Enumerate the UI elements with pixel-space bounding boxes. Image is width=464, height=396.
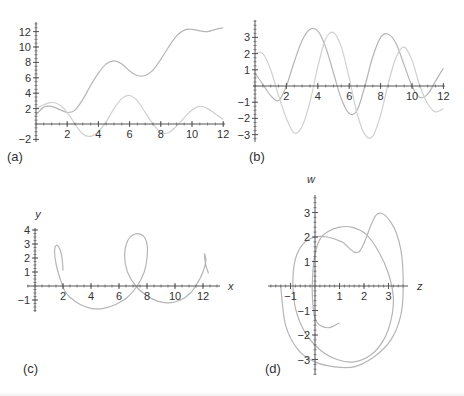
y-tick-label: 8 bbox=[25, 56, 31, 68]
x-tick-label: 2 bbox=[64, 128, 70, 140]
y-tick-label: 2 bbox=[24, 252, 30, 264]
y-tick-label: −1 bbox=[297, 305, 310, 317]
x-tick-label: 4 bbox=[315, 90, 321, 102]
x-tick-label: 12 bbox=[437, 90, 449, 102]
x-tick-label: 8 bbox=[144, 290, 150, 302]
x-tick-label: 4 bbox=[95, 128, 101, 140]
panel-label-b: (b) bbox=[249, 149, 265, 164]
x-tick-label: 10 bbox=[406, 90, 418, 102]
x-tick-label: 3 bbox=[385, 290, 391, 302]
figure-canvas: 24681012−224681012 24681012−3−2−1123 246… bbox=[0, 0, 464, 396]
y-axis-label: w bbox=[307, 173, 316, 185]
panel-a-plot: 24681012−224681012 bbox=[18, 22, 229, 145]
y-tick-label: −3 bbox=[237, 129, 250, 141]
x-tick-label: 2 bbox=[283, 90, 289, 102]
curve-a-1 bbox=[36, 28, 223, 115]
panel-c-plot: 24681012−11234xy bbox=[17, 208, 234, 312]
panel-label-c: (c) bbox=[23, 361, 38, 376]
curve-c-1 bbox=[55, 234, 209, 309]
x-tick-label: 8 bbox=[158, 128, 164, 140]
y-tick-label: 4 bbox=[24, 224, 30, 236]
y-tick-label: 1 bbox=[304, 256, 310, 268]
panel-d-plot: −1123−3−2−1123zw bbox=[268, 173, 423, 375]
y-tick-label: 3 bbox=[244, 31, 250, 43]
y-tick-label: 4 bbox=[25, 87, 31, 99]
y-tick-label: 3 bbox=[24, 238, 30, 250]
y-tick-label: 1 bbox=[244, 64, 250, 76]
x-tick-label: 10 bbox=[186, 128, 198, 140]
y-tick-label: −2 bbox=[237, 112, 250, 124]
x-tick-label: 2 bbox=[361, 290, 367, 302]
y-tick-label: 6 bbox=[25, 72, 31, 84]
panel-b-plot: 24681012−3−2−1123 bbox=[237, 20, 449, 142]
y-tick-label: −2 bbox=[18, 133, 31, 145]
x-tick-label: 8 bbox=[378, 90, 384, 102]
x-tick-label: 12 bbox=[217, 128, 229, 140]
x-tick-label: 1 bbox=[336, 290, 342, 302]
x-axis-label: x bbox=[227, 280, 234, 292]
x-axis-label: z bbox=[416, 280, 423, 292]
x-tick-label: −1 bbox=[284, 290, 297, 302]
y-tick-label: 2 bbox=[304, 231, 310, 243]
y-tick-label: −1 bbox=[237, 96, 250, 108]
y-tick-label: 2 bbox=[25, 103, 31, 115]
y-axis-label: y bbox=[34, 208, 42, 220]
y-tick-label: −2 bbox=[297, 329, 310, 341]
panel-label-d: (d) bbox=[265, 361, 281, 376]
y-tick-label: 12 bbox=[19, 26, 31, 38]
x-tick-label: 6 bbox=[346, 90, 352, 102]
panel-label-a: (a) bbox=[7, 149, 23, 164]
x-tick-label: 12 bbox=[197, 290, 209, 302]
x-tick-label: 2 bbox=[60, 290, 66, 302]
y-tick-label: −3 bbox=[297, 354, 310, 366]
x-tick-label: 6 bbox=[116, 290, 122, 302]
x-tick-label: 6 bbox=[127, 128, 133, 140]
y-tick-label: 2 bbox=[244, 48, 250, 60]
x-tick-label: 4 bbox=[88, 290, 94, 302]
x-tick-label: 10 bbox=[169, 290, 181, 302]
y-tick-label: 3 bbox=[304, 207, 310, 219]
y-tick-label: 10 bbox=[19, 41, 31, 53]
y-tick-label: −1 bbox=[17, 294, 30, 306]
y-tick-label: 1 bbox=[24, 266, 30, 278]
bottom-edge bbox=[0, 392, 464, 396]
